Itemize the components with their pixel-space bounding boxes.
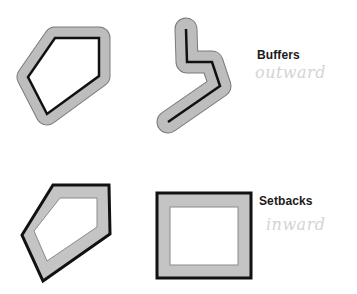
- setbacks-annotation: inward: [266, 215, 326, 234]
- polygon-setback: [22, 185, 110, 281]
- buffers-annotation: outward: [255, 63, 326, 82]
- buffers-label: Buffers: [257, 48, 300, 62]
- polygon-buffer: [28, 38, 99, 114]
- line-buffer: [168, 29, 220, 122]
- rectangle-setback: [157, 193, 251, 278]
- buffers-setbacks-diagram: [0, 0, 357, 294]
- setbacks-label: Setbacks: [259, 194, 313, 208]
